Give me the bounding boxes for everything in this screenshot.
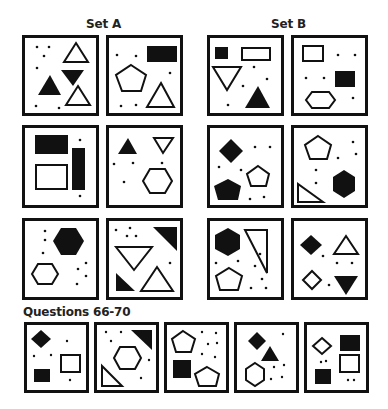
set-a-panel-1 [22,35,99,116]
set-a-title: Set A [86,17,121,31]
question-69-panel[interactable] [234,322,299,393]
set-b-panel-6 [291,218,368,300]
panel-figure [97,325,156,390]
filled-pentagon-icon [214,179,241,200]
outline-triangle-up-icon [66,86,90,105]
outline-triangle-down-icon [116,247,152,270]
outline-hexagon-icon [32,264,58,284]
filled-rectangle-icon [147,46,177,62]
filled-right-triangle-icon [153,227,177,251]
panel-figure [25,128,96,205]
filled-triangle-down-icon [61,70,84,86]
filled-triangle-up-icon [245,86,270,108]
filled-hexagon-icon [53,228,84,255]
outline-hexagon-icon [246,363,264,386]
set-b-panel-4 [291,125,368,208]
filled-tall-rectangle-icon [72,148,85,190]
panel-figure [237,325,296,390]
filled-rectangle-icon [35,135,68,154]
question-68-panel[interactable] [164,322,229,393]
filled-rectangle-icon [34,369,50,382]
outline-pentagon-icon [195,367,219,386]
question-66-panel[interactable] [24,322,89,393]
filled-square-icon [335,71,355,87]
outline-hexagon-icon [306,92,335,108]
set-a-panel-2 [106,35,183,116]
outline-hexagon-icon [143,169,172,193]
filled-rectangle-icon [340,335,360,351]
filled-square-icon [215,47,228,59]
panel-figure [109,128,180,205]
outline-pentagon-icon [172,331,195,352]
outline-square-icon [61,355,80,372]
outline-square-icon [340,355,359,372]
set-b-panel-1 [207,35,284,116]
panel-figure [210,128,281,205]
filled-triangle-up-icon [118,138,137,154]
panel-figure [25,38,96,113]
panel-figure [109,221,180,297]
filled-hexagon-icon [333,170,355,198]
panel-figure [210,38,281,113]
outline-triangle-up-icon [141,267,173,291]
outline-triangle-up-icon [64,43,88,62]
outline-triangle-down-icon [154,138,173,153]
filled-triangle-up-icon [38,75,61,95]
questions-title: Questions 66-70 [23,305,130,319]
panel-figure [294,38,365,113]
panel-figure [167,325,226,390]
outline-pentagon-icon [216,268,242,290]
outline-rectangle-icon [36,165,67,189]
panel-figure [294,221,365,297]
filled-diamond-icon [300,235,322,255]
set-b-panel-5 [207,218,284,300]
set-a-panel-3 [22,125,99,208]
filled-triangle-up-icon [261,346,279,361]
filled-square-icon [173,360,191,378]
filled-diamond-icon [31,330,51,348]
panel-figure [27,325,86,390]
filled-triangle-down-icon [334,276,358,295]
panel-figure [294,128,365,205]
filled-square-icon [315,369,331,384]
filled-diamond-icon [219,139,243,163]
set-a-panel-6 [106,218,183,300]
outline-hexagon-icon [114,347,141,369]
panel-figure [307,325,366,390]
panel-figure [109,38,180,113]
outline-diamond-icon [303,271,321,289]
outline-triangle-up-icon [147,83,174,107]
question-67-panel[interactable] [94,322,159,393]
outline-pentagon-icon [247,166,269,186]
set-b-panel-2 [291,35,368,116]
outline-triangle-up-icon [334,236,358,254]
filled-hexagon-icon [215,228,240,256]
outline-right-triangle-icon [298,184,323,202]
outline-triangle-down-icon [213,67,241,90]
set-a-panel-5 [22,218,99,300]
set-a-panel-4 [106,125,183,208]
filled-right-triangle-icon [116,273,135,291]
outline-rectangle-icon [303,46,323,61]
filled-diamond-icon [248,332,266,350]
set-b-title: Set B [271,17,306,31]
outline-rectangle-icon [242,48,270,60]
outline-pentagon-icon [305,136,331,159]
panel-figure [210,221,281,297]
set-b-panel-3 [207,125,284,208]
panel-figure [25,221,96,297]
question-70-panel[interactable] [304,322,369,393]
outline-diamond-icon [313,338,331,354]
outline-pentagon-icon [116,65,146,91]
